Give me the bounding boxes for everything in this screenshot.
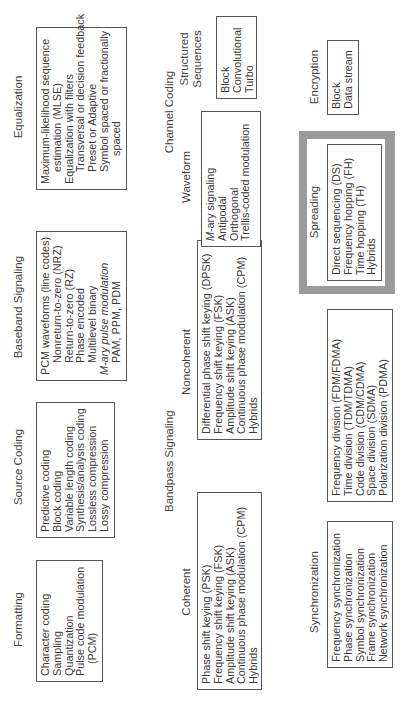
list-item: Nonreturn-to-zero (NRZ): [52, 237, 64, 375]
list-item: estimation (MLSE): [52, 33, 64, 184]
list-item: M-ary pulse modulation: [99, 237, 111, 375]
list-item: Time division (TDM/TDMA): [343, 315, 355, 496]
list-item: PAM, PPM, PDM: [111, 237, 123, 375]
waveform-title: Waveform: [180, 137, 193, 217]
source-coding-box: Predictive coding Block coding Variable …: [36, 402, 115, 538]
list-item: Frequency shift keying (FSK): [213, 246, 225, 434]
list-item: Convolutional: [232, 22, 244, 93]
list-item: Polarization division (PDMA): [378, 315, 390, 496]
source-coding-title: Source Coding: [12, 417, 25, 517]
list-item: Hybrids: [366, 150, 378, 275]
synchronization-title: Synchronization: [308, 537, 321, 647]
synchronization-box: Frequency synchronization Phase synchron…: [327, 521, 393, 668]
list-item: Lossy compression: [99, 408, 111, 532]
list-item: Sampling: [52, 566, 64, 676]
baseband-box: PCM waveforms (line codes) Nonreturn-to-…: [36, 231, 127, 381]
noncoherent-box: Differential phase shift keying (DPSK) F…: [197, 240, 262, 440]
channel-coding-title: Channel Coding: [163, 62, 176, 162]
bandpass-title: Bandpass Signaling: [163, 412, 176, 512]
encryption-box: Block Data stream: [327, 40, 359, 115]
list-item: Turbo: [244, 22, 256, 93]
list-item: Symbol spaced or fractionally: [99, 33, 111, 184]
baseband-title: Baseband Signaling: [12, 247, 25, 367]
encryption-title: Encryption: [308, 42, 321, 112]
noncoherent-title: Noncoherent: [180, 322, 193, 402]
title-line: Sequences: [191, 29, 204, 89]
spreading-box: Direct sequencing (DS) Frequency hopping…: [327, 144, 382, 281]
coherent-title: Coherent: [180, 562, 193, 622]
list-item: Network synchronization: [378, 527, 390, 662]
list-item: Block coding: [52, 408, 64, 532]
equalization-box: Maximum-likelihood sequence estimation (…: [36, 27, 127, 190]
list-item: Frequency shift keying (FSK): [213, 498, 225, 684]
formatting-title: Formatting: [12, 572, 25, 667]
list-item: (PCM): [87, 566, 99, 676]
list-item: Frequency hopping (FH): [343, 150, 355, 275]
coherent-box: Phase shift keying (PSK) Frequency shift…: [197, 492, 262, 690]
list-item: Hybrids: [248, 246, 260, 434]
list-item: spaced: [111, 33, 123, 184]
list-item: Trellis-coded modulation: [240, 117, 252, 241]
list-item: Antipodal: [217, 117, 229, 241]
list-item: Hybrids: [248, 498, 260, 684]
title-line: Structured: [178, 29, 191, 89]
structured-sequences-title: Structured Sequences: [178, 29, 204, 89]
spreading-title: Spreading: [308, 177, 321, 247]
structured-sequences-box: Block Convolutional Turbo: [216, 16, 257, 99]
list-item: Data stream: [343, 46, 355, 109]
formatting-box: Character coding Sampling Quantization P…: [36, 560, 103, 682]
equalization-title: Equalization: [12, 57, 25, 157]
digital-communication-taxonomy: Formatting Character coding Sampling Qua…: [0, 0, 417, 722]
waveform-box: MM-ary signaling-ary signaling Antipodal…: [201, 111, 261, 247]
list-item: Phase synchronization: [343, 527, 355, 662]
multiple-access-box: Frequency division (FDM/FDMA) Time divis…: [327, 309, 393, 502]
